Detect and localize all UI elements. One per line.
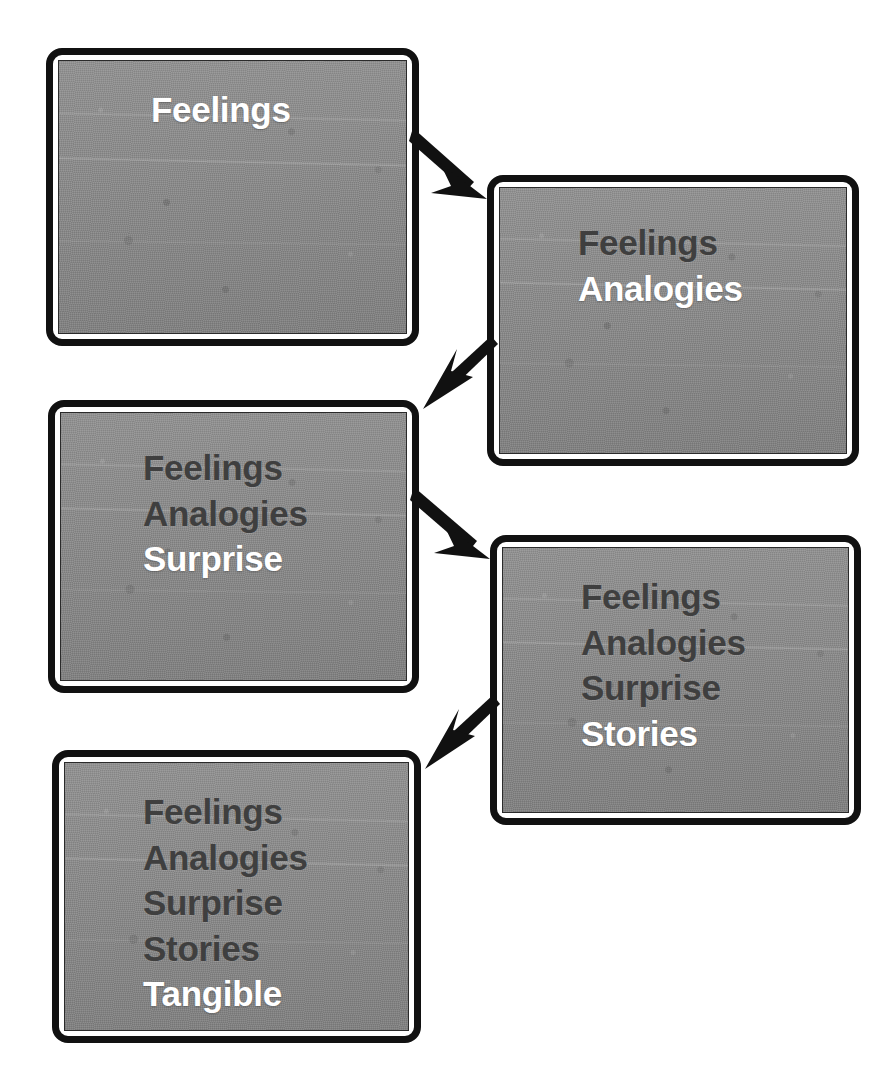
slide-4-line-3: Surprise (581, 665, 721, 711)
slide-4-text-block: Feelings Analogies Surprise Stories (503, 574, 848, 756)
slide-2-line-1: Feelings (578, 220, 718, 266)
slide-5-line-3: Surprise (143, 880, 283, 926)
slide-5-line-1: Feelings (143, 789, 283, 835)
slide-4-line-4: Stories (581, 711, 698, 757)
slide-5-line-2: Analogies (143, 835, 308, 881)
slide-2-surface: Feelings Analogies (499, 187, 847, 454)
slide-5-surface: Feelings Analogies Surprise Stories Tang… (64, 762, 409, 1031)
slide-1-text-block: Feelings (59, 87, 406, 133)
slide-3-line-3: Surprise (143, 536, 283, 582)
slide-3-line-2: Analogies (143, 491, 308, 537)
slide-3-text-block: Feelings Analogies Surprise (61, 445, 406, 582)
slide-2[interactable]: Feelings Analogies (487, 175, 859, 466)
slide-4-line-2: Analogies (581, 620, 746, 666)
slide-4[interactable]: Feelings Analogies Surprise Stories (490, 535, 861, 825)
slide-4-line-1: Feelings (581, 574, 721, 620)
slide-5-text-block: Feelings Analogies Surprise Stories Tang… (65, 789, 408, 1017)
slide-4-surface: Feelings Analogies Surprise Stories (502, 547, 849, 813)
slide-5-line-4: Stories (143, 926, 260, 972)
slide-2-text-block: Feelings Analogies (500, 220, 846, 311)
arrow-1-slide1-to-slide2 (409, 128, 487, 199)
arrow-4-slide4-to-slide5 (425, 695, 500, 769)
slide-1-line-1: Feelings (151, 87, 291, 133)
slide-1[interactable]: Feelings (46, 48, 419, 346)
arrow-3-slide3-to-slide4 (410, 487, 490, 559)
slide-3[interactable]: Feelings Analogies Surprise (48, 400, 419, 693)
slide-5[interactable]: Feelings Analogies Surprise Stories Tang… (52, 750, 421, 1043)
diagram-canvas: Feelings Feelings Analogies Feelings Ana… (0, 0, 894, 1090)
slide-1-surface: Feelings (58, 60, 407, 334)
slide-3-line-1: Feelings (143, 445, 283, 491)
slide-2-line-2: Analogies (578, 266, 743, 312)
slide-3-surface: Feelings Analogies Surprise (60, 412, 407, 681)
slide-5-line-5: Tangible (143, 971, 282, 1017)
